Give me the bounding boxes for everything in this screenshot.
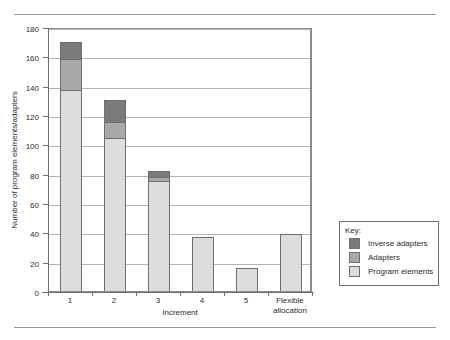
y-axis: 020406080100120140160180 — [48, 28, 49, 293]
x-tick-label-5: 5 — [224, 296, 268, 306]
x-tick-label-line1: Flexible — [268, 296, 312, 306]
y-tick: 80 — [43, 175, 49, 176]
bar-segment-program — [192, 237, 214, 291]
x-tick — [312, 292, 313, 296]
y-tick-label: 160 — [26, 54, 39, 63]
y-tick-label: 180 — [26, 25, 39, 34]
y-axis-title: Number of program elements/adapters — [10, 91, 19, 228]
x-tick-label-line1: 1 — [48, 296, 92, 306]
bar-4[interactable] — [192, 237, 214, 291]
x-tick-label-3: 3 — [136, 296, 180, 306]
bar-segment-program — [280, 234, 302, 291]
legend-items-group: Inverse adaptersAdaptersProgram elements — [345, 238, 434, 277]
top-divider-rule — [14, 14, 436, 15]
figure-container: 020406080100120140160180 12345Flexibleal… — [0, 0, 450, 340]
bar-3[interactable] — [148, 171, 170, 291]
legend-item-3[interactable]: Program elements — [345, 266, 434, 277]
bar-segment-adapters — [60, 59, 82, 90]
y-tick: 160 — [43, 57, 49, 58]
y-tick: 120 — [43, 116, 49, 117]
x-axis — [42, 292, 314, 293]
gridline — [49, 117, 310, 118]
bar-5[interactable] — [236, 268, 258, 291]
legend-item-label: Adapters — [368, 253, 400, 262]
legend-item-1[interactable]: Inverse adapters — [345, 238, 434, 249]
x-tick-label-line1: 4 — [180, 296, 224, 306]
y-tick: 100 — [43, 145, 49, 146]
y-tick-label: 100 — [26, 142, 39, 151]
y-tick: 180 — [43, 28, 49, 29]
y-tick: 140 — [43, 87, 49, 88]
x-tick-label-line1: 5 — [224, 296, 268, 306]
bar-segment-program — [148, 181, 170, 291]
y-tick-label: 40 — [30, 230, 39, 239]
gridline — [49, 29, 310, 30]
y-tick-label: 120 — [26, 113, 39, 122]
bar-segment-program — [60, 90, 82, 291]
gridline — [49, 205, 310, 206]
bar-segment-adapters — [104, 122, 126, 138]
gridline — [49, 88, 310, 89]
legend-item-label: Program elements — [368, 267, 433, 276]
legend-title: Key: — [345, 226, 434, 235]
x-tick-label-2: 2 — [92, 296, 136, 306]
y-tick: 60 — [43, 204, 49, 205]
gridline — [49, 176, 310, 177]
y-tick-label: 140 — [26, 83, 39, 92]
gridline — [49, 58, 310, 59]
gridline — [49, 264, 310, 265]
x-tick-label-line1: 2 — [92, 296, 136, 306]
bar-2[interactable] — [104, 100, 126, 291]
x-axis-title: Increment — [48, 308, 312, 317]
y-tick: 40 — [43, 233, 49, 234]
legend-item-label: Inverse adapters — [368, 239, 428, 248]
x-tick-label-1: 1 — [48, 296, 92, 306]
y-tick-label: 60 — [30, 201, 39, 210]
x-tick-label-line1: 3 — [136, 296, 180, 306]
y-tick-label: 0 — [35, 289, 39, 298]
x-tick-label-4: 4 — [180, 296, 224, 306]
y-tick: 20 — [43, 263, 49, 264]
program-elements-swatch — [349, 266, 360, 277]
bar-segment-inverse — [60, 42, 82, 60]
bar-segment-inverse — [104, 100, 126, 122]
gridline — [49, 146, 310, 147]
adapters-swatch — [349, 252, 360, 263]
bar-segment-program — [236, 268, 258, 291]
y-tick-label: 80 — [30, 171, 39, 180]
plot-area — [48, 28, 312, 292]
bar-6[interactable] — [280, 234, 302, 291]
bottom-divider-rule — [14, 327, 436, 328]
gridline — [49, 234, 310, 235]
y-tick-label: 20 — [30, 259, 39, 268]
legend-item-2[interactable]: Adapters — [345, 252, 434, 263]
bar-segment-program — [104, 138, 126, 291]
bar-1[interactable] — [60, 42, 82, 291]
inverse-adapters-swatch — [349, 238, 360, 249]
legend-box: Key: Inverse adaptersAdaptersProgram ele… — [339, 221, 439, 286]
